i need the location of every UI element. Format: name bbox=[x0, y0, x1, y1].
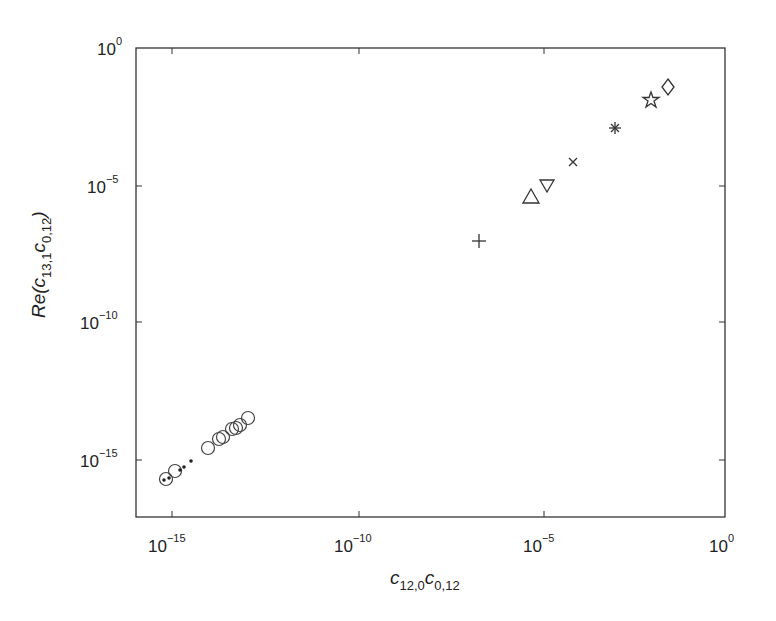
scatter-chart: 10−15 10−10 10−5 100 100 10−5 10−10 10−1… bbox=[0, 0, 776, 621]
y-tick-label: 10−15 bbox=[80, 447, 118, 471]
x-tick-label: 100 bbox=[709, 532, 734, 556]
axes-frame bbox=[136, 48, 725, 517]
x-tick-label: 10−15 bbox=[148, 532, 186, 556]
y-axis-label: Re(c13,1c0,12) bbox=[28, 211, 54, 318]
x-ticks bbox=[172, 48, 544, 517]
triangle-up-marker bbox=[523, 189, 539, 203]
x-axis-label: c12,0c0,12 bbox=[390, 567, 460, 593]
y-tick-labels: 100 10−5 10−10 10−15 bbox=[80, 35, 122, 471]
y-tick-label: 100 bbox=[97, 35, 122, 59]
circle-markers bbox=[160, 412, 255, 486]
pentagram-marker bbox=[643, 92, 659, 107]
dot-markers bbox=[162, 459, 193, 482]
asterisk-marker bbox=[609, 122, 621, 134]
y-ticks bbox=[136, 186, 725, 460]
x-tick-label: 10−10 bbox=[334, 532, 372, 556]
x-marker bbox=[569, 158, 577, 166]
x-tick-label: 10−5 bbox=[523, 532, 554, 556]
diamond-marker bbox=[662, 79, 674, 95]
y-tick-label: 10−10 bbox=[80, 309, 118, 333]
triangle-down-marker bbox=[540, 180, 554, 192]
plus-marker bbox=[472, 234, 486, 248]
x-tick-labels: 10−15 10−10 10−5 100 bbox=[148, 532, 734, 556]
y-tick-label: 10−5 bbox=[87, 173, 118, 197]
